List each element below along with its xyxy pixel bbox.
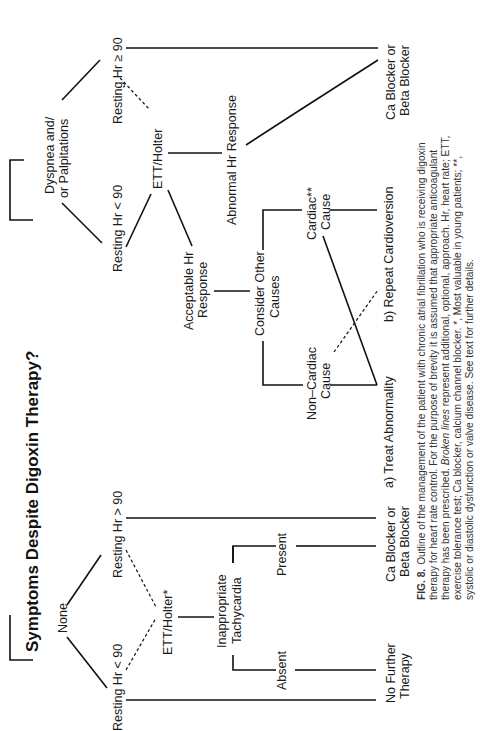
dashed-edge-noncardiac-repeat [334, 290, 378, 352]
edge-dyspnea-ge90 [62, 60, 100, 100]
title-bracket-right [10, 160, 33, 220]
node-treat: a) Treat Abnormality [382, 375, 396, 488]
edge-cardiac-treat [323, 236, 377, 385]
caption-line-3: therapy has been prescribed. Broken line… [440, 136, 451, 600]
caption-line-2: therapy for heart rate control. For the … [428, 150, 439, 600]
edge-ett-acceptable [168, 190, 192, 246]
node-no-further-therapy: Therapy [398, 652, 412, 699]
node-dyspnea-2: or Palpitations [57, 119, 71, 198]
node-repeat: b) Repeat Cardioversion [382, 186, 396, 322]
flowchart: Symptoms Despite Digoxin Therapy? None R… [0, 0, 480, 731]
edge-dyspnea-lt90 [62, 203, 102, 243]
node-dyspnea: Dyspnea and/ [43, 116, 57, 194]
node-no-further: No Further [384, 643, 398, 703]
node-consider: Consider Other [253, 251, 267, 336]
node-cardiac-2: Cause [319, 194, 333, 230]
edge-inappropriate-absent [233, 655, 276, 670]
node-non-cardiac-2: Cause [319, 363, 333, 399]
node-abnormal: Abnormal Hr Response [225, 95, 239, 225]
caption-label: FIG. 8. [416, 569, 427, 600]
edge-consider-cardiac [263, 210, 302, 250]
node-ca-beta-left: Ca Blocker or [384, 506, 398, 582]
node-ca-beta-left-2: Beta Blocker [398, 506, 412, 577]
node-acceptable-2: Response [196, 262, 210, 318]
node-ca-beta-right-2: Beta Blocker [398, 45, 412, 116]
node-ett-holter: ETT/Holter [151, 129, 165, 189]
caption-line-5: systolic or diastolic dysfunction or val… [464, 259, 475, 600]
node-present: Present [275, 532, 289, 576]
edge-consider-noncardiac [263, 341, 303, 385]
node-acceptable: Acceptable Hr [182, 251, 196, 330]
edge-none-gt90 [67, 555, 101, 605]
caption-line-1: FIG. 8.Outline of the management of the … [416, 142, 427, 600]
node-ett-holter-star: ETT/Holter* [161, 590, 175, 655]
node-non-cardiac: Non–Cardiac [305, 347, 319, 420]
node-cardiac: Cardiac** [305, 187, 319, 240]
node-ca-beta-right: Ca Blocker or [384, 44, 398, 120]
node-resting-lt90-right: Resting Hr < 90 [111, 185, 125, 272]
edge-abnormal-cablocker [246, 60, 378, 145]
figure-page: Symptoms Despite Digoxin Therapy? None R… [0, 0, 480, 731]
caption-line-4: exercise tolerance test; Ca blocker, cal… [452, 156, 463, 600]
edge-inappropriate-present [233, 546, 276, 563]
edge-none-lt90 [67, 637, 107, 688]
node-resting-lt90-left: Resting Hr < 90 [111, 644, 125, 731]
dashed-edge-lt90-ett [126, 618, 156, 670]
node-resting-gt90-left: Resting Hr > 90 [111, 491, 125, 578]
node-inappropriate: Inappropriate [215, 574, 229, 648]
node-resting-ge90-right: Resting Hr ≥ 90 [111, 37, 125, 124]
chart-title: Symptoms Despite Digoxin Therapy? [23, 351, 42, 652]
node-consider-2: Causes [268, 276, 282, 318]
edge-lt90-ett [126, 194, 151, 247]
node-tachycardia-text: Tachycardia [230, 577, 244, 644]
dashed-edge-gt90-ett [126, 550, 156, 607]
node-none: None [56, 603, 70, 633]
node-absent: Absent [275, 651, 289, 690]
